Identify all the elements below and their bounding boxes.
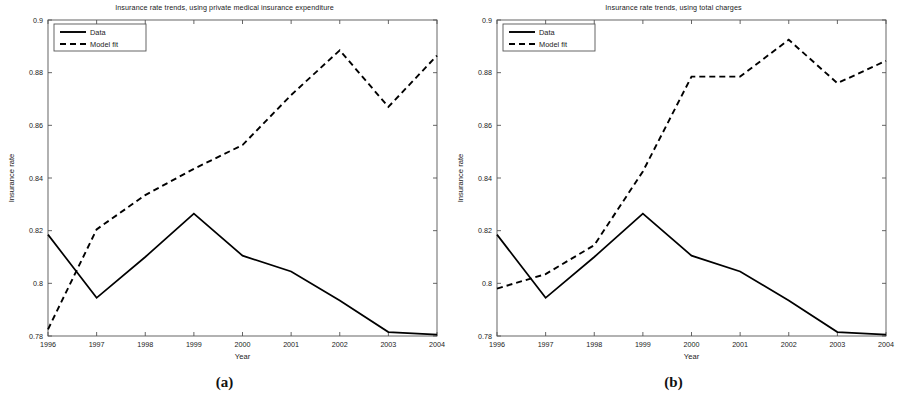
x-tick-label: 1996 xyxy=(40,340,56,349)
x-tick-label: 2001 xyxy=(283,340,299,349)
x-tick-label: 1997 xyxy=(538,340,554,349)
x-axis-label: Year xyxy=(684,352,700,360)
y-tick-label: 0.8 xyxy=(33,279,43,288)
legend-label-data: Data xyxy=(90,28,107,37)
x-tick-label: 2002 xyxy=(781,340,797,349)
x-tick-label: 1999 xyxy=(635,340,651,349)
y-tick-label: 0.84 xyxy=(478,174,492,183)
series-line-model-fit xyxy=(497,40,886,289)
plot-area-a: Insurance rate trends, using private med… xyxy=(0,0,449,360)
y-tick-label: 0.82 xyxy=(478,226,492,235)
subfigure-label-b: (b) xyxy=(449,374,898,391)
legend-label-data: Data xyxy=(539,28,556,37)
x-tick-label: 2004 xyxy=(429,340,445,349)
x-tick-label: 1996 xyxy=(489,340,505,349)
y-tick-label: 0.8 xyxy=(482,279,492,288)
subfigure-b: Insurance rate trends, using total charg… xyxy=(449,0,898,395)
x-tick-label: 2001 xyxy=(732,340,748,349)
x-tick-label: 1997 xyxy=(89,340,105,349)
y-axis-label: Insurance rate xyxy=(456,154,465,203)
y-tick-label: 0.84 xyxy=(29,174,43,183)
x-tick-label: 2000 xyxy=(684,340,700,349)
subfigure-label-a: (a) xyxy=(0,374,449,391)
x-tick-label: 2003 xyxy=(380,340,396,349)
x-tick-label: 2003 xyxy=(829,340,845,349)
y-tick-label: 0.88 xyxy=(29,68,43,77)
y-axis-label: Insurance rate xyxy=(7,154,16,203)
x-tick-label: 1999 xyxy=(186,340,202,349)
y-tick-label: 0.9 xyxy=(482,16,492,25)
line-chart-a: 0.780.80.820.840.860.880.919961997199819… xyxy=(0,0,449,360)
y-tick-label: 0.9 xyxy=(33,16,43,25)
subfigure-a: Insurance rate trends, using private med… xyxy=(0,0,449,395)
y-tick-label: 0.86 xyxy=(29,121,43,130)
x-tick-label: 2004 xyxy=(878,340,894,349)
x-tick-label: 1998 xyxy=(586,340,602,349)
figure-container: Insurance rate trends, using private med… xyxy=(0,0,898,395)
legend-label-model-fit: Model fit xyxy=(90,40,118,49)
y-tick-label: 0.82 xyxy=(29,226,43,235)
x-tick-label: 1998 xyxy=(137,340,153,349)
series-line-data xyxy=(497,214,886,335)
plot-area-b: Insurance rate trends, using total charg… xyxy=(449,0,898,360)
y-tick-label: 0.88 xyxy=(478,68,492,77)
series-line-data xyxy=(48,214,437,335)
legend-label-model-fit: Model fit xyxy=(539,40,567,49)
series-line-model-fit xyxy=(48,50,437,329)
x-tick-label: 2002 xyxy=(332,340,348,349)
y-tick-label: 0.86 xyxy=(478,121,492,130)
line-chart-b: 0.780.80.820.840.860.880.919961997199819… xyxy=(449,0,898,360)
x-tick-label: 2000 xyxy=(235,340,251,349)
x-axis-label: Year xyxy=(235,352,251,360)
